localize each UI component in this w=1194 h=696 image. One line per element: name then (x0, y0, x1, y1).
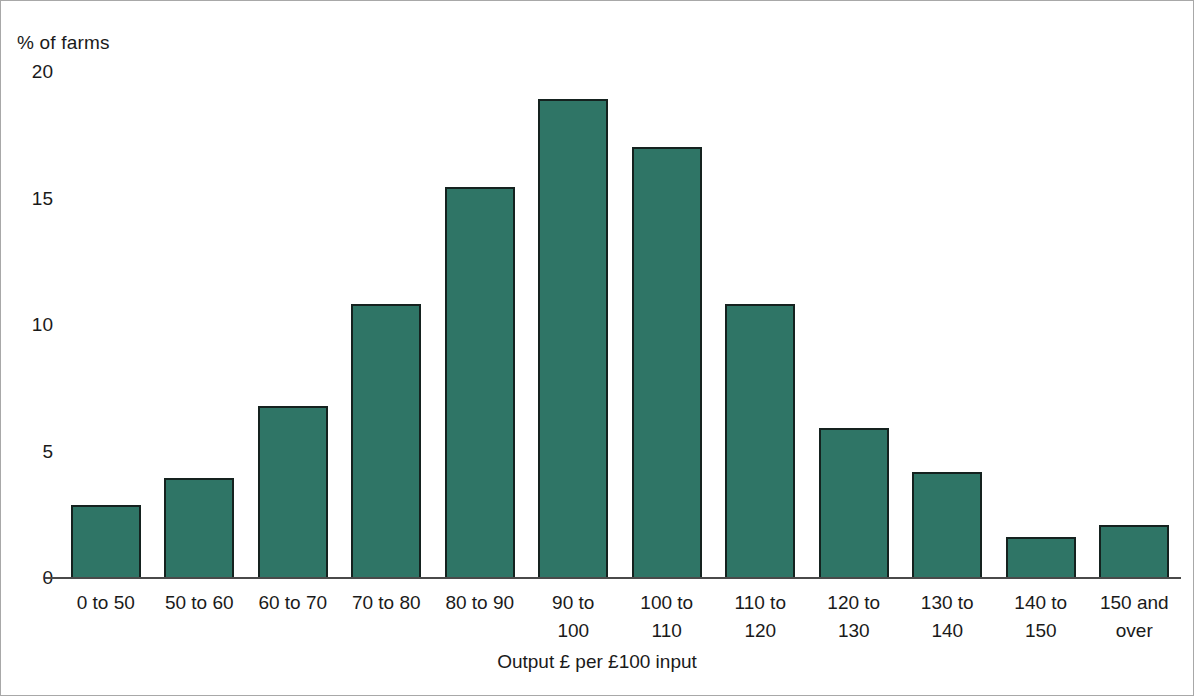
x-tick-label: 90 to 100 (527, 589, 621, 645)
x-tick-label: 80 to 90 (433, 589, 527, 617)
x-tick-label: 150 and over (1088, 589, 1182, 645)
x-tick-label: 60 to 70 (246, 589, 340, 617)
x-axis-line (45, 577, 1181, 579)
bar (164, 478, 234, 577)
x-tick-label: 140 to 150 (994, 589, 1088, 645)
bar (445, 187, 515, 577)
bar (912, 472, 982, 577)
y-axis-title: % of farms (17, 32, 110, 54)
plot-area: 05101520 (59, 71, 1181, 577)
x-tick-label: 0 to 50 (59, 589, 153, 617)
bar (258, 406, 328, 577)
bar (1099, 525, 1169, 577)
bar (819, 428, 889, 577)
bar (538, 99, 608, 577)
bar (725, 304, 795, 577)
x-tick-label: 50 to 60 (153, 589, 247, 617)
y-tick-label: 20 (13, 62, 53, 81)
y-tick-label: 5 (13, 441, 53, 460)
bar (632, 147, 702, 577)
bar (351, 304, 421, 577)
bar-chart-figure: % of farms 05101520 0 to 5050 to 6060 to… (0, 0, 1194, 696)
bar (1006, 537, 1076, 577)
x-tick-label: 110 to 120 (714, 589, 808, 645)
x-tick-label: 100 to 110 (620, 589, 714, 645)
y-tick-label: 10 (13, 315, 53, 334)
x-tick-label: 130 to 140 (901, 589, 995, 645)
bar (71, 505, 141, 577)
x-tick-label: 70 to 80 (340, 589, 434, 617)
x-axis-tick-labels: 0 to 5050 to 6060 to 7070 to 8080 to 909… (59, 589, 1181, 651)
y-tick-label: 15 (13, 188, 53, 207)
x-tick-label: 120 to 130 (807, 589, 901, 645)
x-axis-title: Output £ per £100 input (1, 651, 1193, 673)
